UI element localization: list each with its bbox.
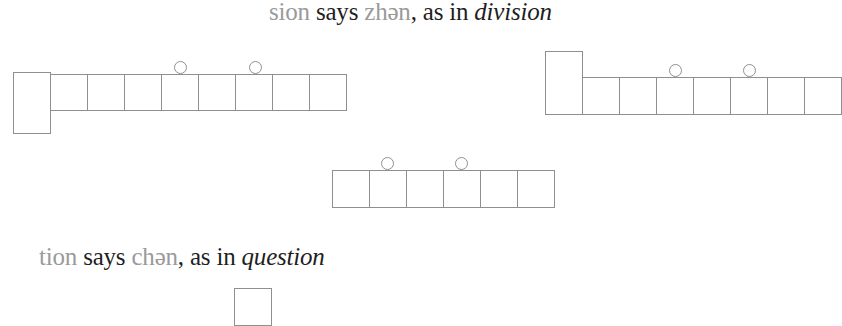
example-question: question xyxy=(242,243,325,270)
letter-box xyxy=(582,77,620,115)
letter-box xyxy=(619,77,657,115)
as-in-text: , as in xyxy=(178,243,242,270)
suffix-tion: tion xyxy=(39,243,77,270)
letter-box xyxy=(656,77,694,115)
sound-chen: chən xyxy=(131,243,177,270)
letter-box xyxy=(272,74,310,111)
vowel-circle-icon xyxy=(249,61,262,74)
vowel-circle-icon xyxy=(455,157,468,170)
letter-box xyxy=(198,74,236,111)
suffix-sion: sion xyxy=(269,0,310,25)
letter-box xyxy=(406,170,444,208)
letter-box xyxy=(693,77,731,115)
rule-sion-caption: sion says zhən, as in division xyxy=(269,0,552,26)
letter-box xyxy=(161,74,199,111)
letter-box xyxy=(480,170,518,208)
letter-box xyxy=(235,74,273,111)
letter-box xyxy=(124,74,162,111)
tall-letter-box xyxy=(545,51,583,115)
letter-box xyxy=(332,170,370,208)
letter-box xyxy=(767,77,805,115)
letter-box xyxy=(517,170,555,208)
rule-tion-caption: tion says chən, as in question xyxy=(39,243,325,271)
says-text: says xyxy=(77,243,131,270)
vowel-circle-icon xyxy=(174,61,187,74)
as-in-text: , as in xyxy=(411,0,475,25)
letter-box xyxy=(369,170,407,208)
letter-box xyxy=(87,74,125,111)
vowel-circle-icon xyxy=(381,157,394,170)
vowel-circle-icon xyxy=(669,64,682,77)
example-division: division xyxy=(474,0,552,25)
says-text: says xyxy=(310,0,364,25)
letter-box xyxy=(804,77,842,115)
letter-box-partial xyxy=(234,288,272,326)
letter-box xyxy=(309,74,347,111)
letter-box xyxy=(443,170,481,208)
vowel-circle-icon xyxy=(743,64,756,77)
tall-letter-box xyxy=(13,72,51,134)
letter-box xyxy=(50,74,88,111)
letter-box xyxy=(730,77,768,115)
sound-zhen: zhən xyxy=(364,0,410,25)
